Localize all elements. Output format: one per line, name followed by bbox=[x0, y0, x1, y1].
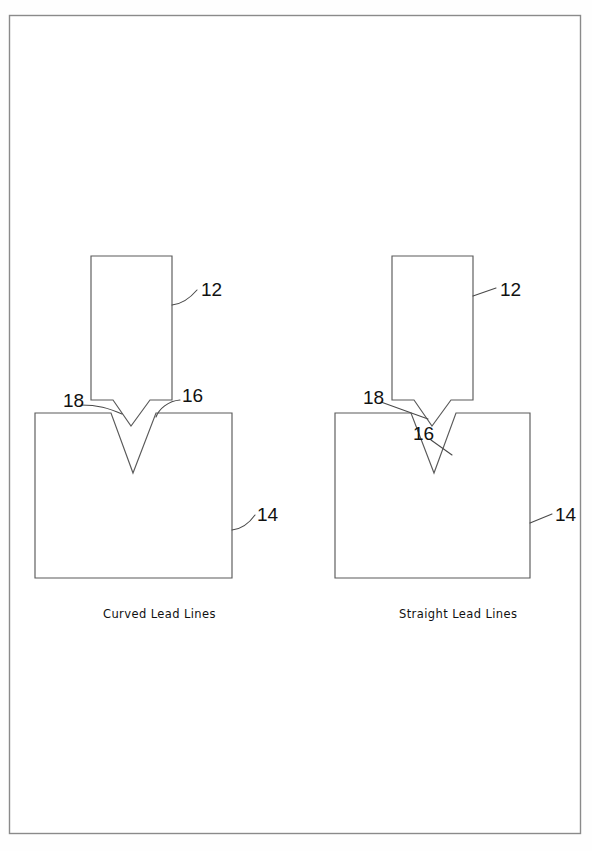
reference-numeral-12: 12 bbox=[201, 279, 222, 300]
reference-numeral-18: 18 bbox=[63, 390, 84, 411]
reference-numeral-16: 16 bbox=[182, 385, 203, 406]
reference-numeral-14: 14 bbox=[257, 504, 279, 525]
figure-caption-left: Curved Lead Lines bbox=[103, 607, 216, 621]
figure-caption-right: Straight Lead Lines bbox=[399, 607, 517, 621]
punch-outline-right bbox=[392, 256, 473, 426]
reference-numeral-14: 14 bbox=[555, 504, 577, 525]
reference-numeral-12: 12 bbox=[500, 279, 521, 300]
patent-drawing: 12 18 16 14 Curved Lead Lines 12 18 16 1… bbox=[0, 0, 592, 851]
reference-numeral-18: 18 bbox=[363, 387, 384, 408]
reference-numeral-16: 16 bbox=[413, 423, 434, 444]
punch-outline-left bbox=[91, 256, 172, 426]
drawing-sheet: 12 18 16 14 Curved Lead Lines 12 18 16 1… bbox=[0, 0, 592, 851]
